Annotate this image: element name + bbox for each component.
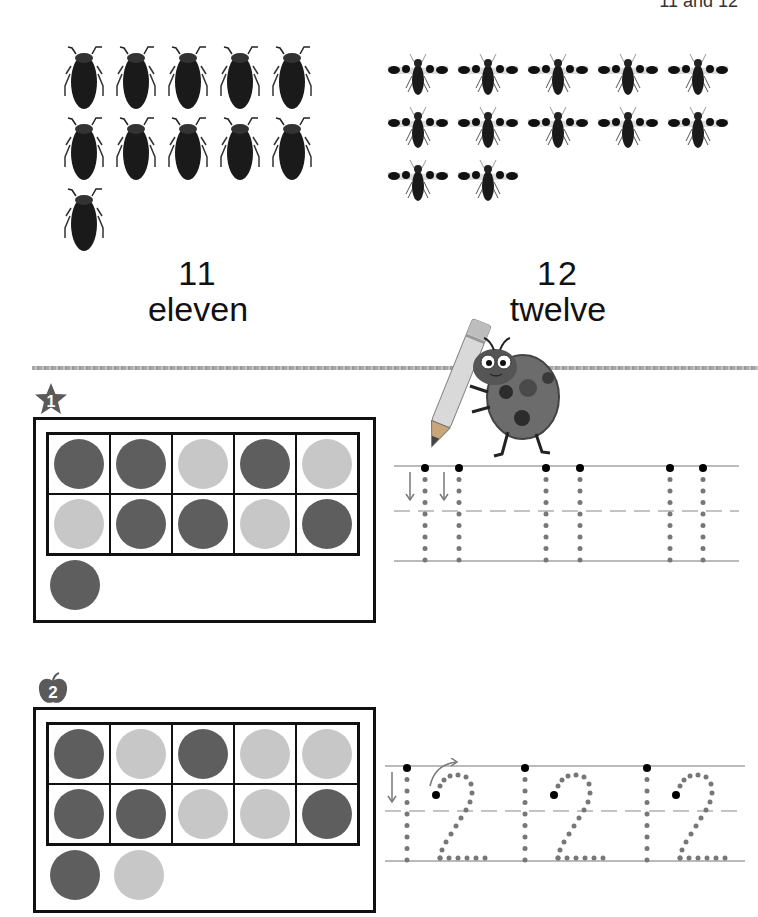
ten-frame-cell	[48, 724, 110, 784]
light-counter	[240, 789, 290, 839]
light-counter	[302, 729, 352, 779]
trace-dot	[423, 512, 428, 517]
trace-dot	[405, 789, 410, 794]
trace-dot	[423, 477, 428, 482]
trace-dot	[444, 840, 449, 845]
trace-dot	[582, 808, 587, 813]
trace-dot	[454, 824, 459, 829]
ten-frame-cell	[296, 494, 358, 554]
trace-dot	[457, 500, 462, 505]
trace-dot	[678, 784, 683, 789]
trace-dot	[470, 791, 475, 796]
trace-dot	[645, 823, 650, 828]
ten-frame-cell	[234, 434, 296, 494]
trace-dot	[468, 800, 473, 805]
trace-dot	[578, 535, 583, 540]
trace-dot	[449, 832, 454, 837]
beetle-icon	[62, 44, 114, 115]
trace-dot	[423, 500, 428, 505]
trace-dot	[574, 856, 579, 861]
start-dot	[432, 791, 440, 799]
trace-dot	[523, 846, 528, 851]
trace-dot	[423, 546, 428, 551]
trace-dot	[684, 840, 689, 845]
start-dot	[521, 764, 529, 772]
dark-counter	[50, 560, 100, 610]
dark-counter	[54, 789, 104, 839]
start-dot	[643, 764, 651, 772]
trace-dot	[577, 816, 582, 821]
numeral: 12	[478, 256, 638, 290]
trace-dot	[578, 558, 583, 563]
trace-dot	[696, 856, 701, 861]
stroke-direction-arrow-icon	[388, 772, 396, 802]
trace-dot	[523, 800, 528, 805]
svg-text:2: 2	[48, 683, 57, 702]
dark-counter	[54, 729, 104, 779]
trace-dot	[457, 477, 462, 482]
trace-dot	[566, 774, 571, 779]
number-eleven: 11 eleven	[128, 256, 268, 326]
trace-dot	[405, 835, 410, 840]
beetle-icon	[166, 115, 218, 186]
trace-dot	[704, 775, 709, 780]
start-dot	[576, 464, 584, 472]
dark-counter	[302, 789, 352, 839]
beetle-icon	[62, 115, 114, 186]
start-dot	[403, 764, 411, 772]
trace-dot	[588, 791, 593, 796]
light-counter	[240, 729, 290, 779]
trace-dot	[567, 832, 572, 837]
trace-dot	[558, 848, 563, 853]
trace-dot	[544, 558, 549, 563]
winged-beetle-icon	[596, 52, 666, 105]
ten-frame-cell	[172, 434, 234, 494]
tracing-area-12[interactable]	[385, 758, 745, 868]
trace-dot	[457, 535, 462, 540]
trace-dot	[578, 512, 583, 517]
start-dot	[421, 464, 429, 472]
trace-dot	[483, 856, 488, 861]
light-counter	[116, 729, 166, 779]
trace-dot	[405, 858, 410, 863]
beetle-icon	[218, 44, 270, 115]
dark-counter	[178, 729, 228, 779]
ten-frame-cell	[48, 434, 110, 494]
trace-dot	[668, 546, 673, 551]
trace-dot	[523, 858, 528, 863]
winged-beetle-icon	[666, 52, 736, 105]
trace-dot	[465, 856, 470, 861]
trace-dot	[544, 546, 549, 551]
trace-dot	[405, 800, 410, 805]
trace-dot	[668, 558, 673, 563]
trace-dot	[578, 477, 583, 482]
trace-dot	[438, 856, 443, 861]
trace-dot	[582, 775, 587, 780]
ten-frame-cell	[110, 784, 172, 844]
trace-dot	[668, 535, 673, 540]
ten-frame-cell	[234, 724, 296, 784]
dark-counter	[54, 439, 104, 489]
trace-dot	[645, 777, 650, 782]
tracing-area-11[interactable]	[394, 458, 739, 568]
trace-dot	[423, 535, 428, 540]
trace-dot	[562, 840, 567, 845]
trace-dot	[668, 512, 673, 517]
ten-frame-cell	[172, 724, 234, 784]
trace-dot	[523, 789, 528, 794]
trace-dot	[668, 477, 673, 482]
ten-frame-cell	[234, 494, 296, 554]
trace-dot	[699, 816, 704, 821]
trace-dot	[544, 489, 549, 494]
winged-beetle-icon	[456, 52, 526, 105]
beetle-icon	[166, 44, 218, 115]
ten-frame-cell	[296, 724, 358, 784]
counting-frame-1	[33, 417, 376, 623]
ten-frame-cell	[110, 724, 172, 784]
start-dot	[672, 791, 680, 799]
trace-dot	[601, 856, 606, 861]
light-counter	[178, 789, 228, 839]
trace-dot	[678, 856, 683, 861]
trace-dot	[723, 856, 728, 861]
counting-frame-2	[33, 707, 376, 913]
